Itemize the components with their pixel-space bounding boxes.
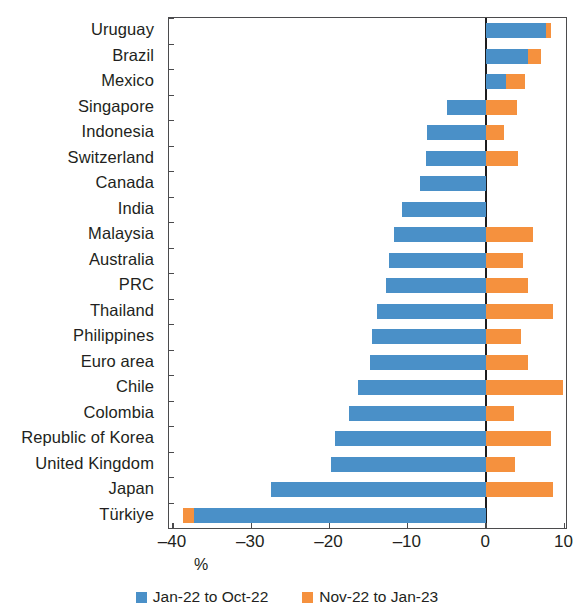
- y-axis-tick: [169, 401, 174, 402]
- bar-segment-jan22-oct22: [402, 202, 487, 217]
- bar-segment-jan22-oct22: [486, 23, 546, 38]
- bar-row: [169, 146, 566, 172]
- bar-segment-nov22-jan23: [486, 278, 528, 293]
- x-axis-tick: [251, 523, 252, 529]
- bar-segment-jan22-oct22: [331, 457, 486, 472]
- category-label: Republic of Korea: [0, 425, 161, 451]
- bar-segment-jan22-oct22: [389, 253, 486, 268]
- bar-row: [169, 350, 566, 376]
- x-axis-title: %: [0, 556, 574, 574]
- x-axis-tick: [485, 523, 486, 529]
- bar-row: [169, 426, 566, 452]
- bar-row: [169, 44, 566, 70]
- bar-segment-jan22-oct22: [386, 278, 486, 293]
- x-axis-tick-label: –20: [314, 532, 342, 552]
- x-axis-tick-label: 10: [554, 532, 573, 552]
- category-label: Canada: [0, 170, 161, 196]
- y-axis-tick: [169, 426, 174, 427]
- category-label: PRC: [0, 272, 161, 298]
- category-label: Switzerland: [0, 145, 161, 171]
- y-axis-tick: [169, 44, 174, 45]
- x-axis-title-text: %: [194, 556, 208, 573]
- legend-label: Nov-22 to Jan-23: [319, 588, 438, 606]
- bar-segment-nov22-jan23: [486, 227, 533, 242]
- bar-row: [169, 18, 566, 44]
- y-axis-tick: [169, 248, 174, 249]
- bar-chart: UruguayBrazilMexicoSingaporeIndonesiaSwi…: [0, 0, 574, 614]
- bar-segment-jan22-oct22: [372, 329, 486, 344]
- category-label: Türkiye: [0, 502, 161, 528]
- bar-segment-nov22-jan23: [486, 457, 515, 472]
- bar-segment-jan22-oct22: [427, 125, 486, 140]
- category-label: Singapore: [0, 94, 161, 120]
- y-axis-tick: [169, 324, 174, 325]
- bar-segment-nov22-jan23: [183, 508, 194, 523]
- bar-row: [169, 248, 566, 274]
- bar-segment-jan22-oct22: [358, 380, 486, 395]
- y-axis-tick: [169, 350, 174, 351]
- bar-segment-nov22-jan23: [486, 380, 563, 395]
- y-axis-tick: [169, 503, 174, 504]
- bar-segment-nov22-jan23: [486, 406, 513, 421]
- y-axis-tick: [169, 452, 174, 453]
- bar-row: [169, 69, 566, 95]
- y-axis-tick: [169, 95, 174, 96]
- y-axis-tick: [169, 69, 174, 70]
- category-label: United Kingdom: [0, 451, 161, 477]
- category-label: Uruguay: [0, 17, 161, 43]
- bar-row: [169, 324, 566, 350]
- bar-segment-nov22-jan23: [486, 100, 517, 115]
- bar-segment-nov22-jan23: [528, 49, 541, 64]
- y-axis-tick: [169, 222, 174, 223]
- y-axis-tick: [169, 146, 174, 147]
- bar-row: [169, 477, 566, 503]
- bar-segment-jan22-oct22: [486, 49, 528, 64]
- y-axis-tick: [169, 273, 174, 274]
- bar-segment-jan22-oct22: [420, 176, 486, 191]
- y-axis-tick: [169, 18, 174, 19]
- bar-segment-nov22-jan23: [486, 151, 518, 166]
- bar-segment-nov22-jan23: [486, 329, 521, 344]
- x-axis-tick-label: 0: [480, 532, 489, 552]
- x-axis-tick-label: –30: [236, 532, 264, 552]
- bar-segment-jan22-oct22: [447, 100, 486, 115]
- y-axis-tick: [169, 299, 174, 300]
- bar-segment-nov22-jan23: [486, 125, 504, 140]
- y-axis-tick: [169, 171, 174, 172]
- category-label: Brazil: [0, 43, 161, 69]
- y-axis-tick: [169, 375, 174, 376]
- legend-swatch-orange: [302, 592, 313, 603]
- bar-row: [169, 452, 566, 478]
- y-axis-tick: [169, 197, 174, 198]
- legend-label: Jan-22 to Oct-22: [153, 588, 268, 606]
- bar-segment-jan22-oct22: [486, 74, 506, 89]
- category-axis-labels: UruguayBrazilMexicoSingaporeIndonesiaSwi…: [0, 17, 161, 527]
- y-axis-tick: [169, 477, 174, 478]
- bar-segment-nov22-jan23: [486, 431, 551, 446]
- category-label: India: [0, 196, 161, 222]
- x-axis-tick-label: –40: [158, 532, 186, 552]
- legend-item: Nov-22 to Jan-23: [302, 588, 438, 606]
- bar-segment-jan22-oct22: [349, 406, 486, 421]
- bar-segment-jan22-oct22: [426, 151, 486, 166]
- bar-segment-jan22-oct22: [194, 508, 486, 523]
- bar-row: [169, 120, 566, 146]
- legend-item: Jan-22 to Oct-22: [136, 588, 268, 606]
- bar-row: [169, 171, 566, 197]
- bar-segment-nov22-jan23: [486, 253, 523, 268]
- legend-swatch-blue: [136, 592, 147, 603]
- x-axis-tick: [329, 523, 330, 529]
- plot-area: [168, 17, 567, 529]
- bar-segment-jan22-oct22: [377, 304, 487, 319]
- category-label: Colombia: [0, 400, 161, 426]
- bar-segment-jan22-oct22: [271, 482, 486, 497]
- bar-row: [169, 95, 566, 121]
- bar-segment-jan22-oct22: [370, 355, 486, 370]
- category-label: Chile: [0, 374, 161, 400]
- bar-row: [169, 273, 566, 299]
- category-label: Japan: [0, 476, 161, 502]
- category-label: Mexico: [0, 68, 161, 94]
- y-axis-tick: [169, 120, 174, 121]
- category-label: Malaysia: [0, 221, 161, 247]
- bar-segment-nov22-jan23: [486, 482, 553, 497]
